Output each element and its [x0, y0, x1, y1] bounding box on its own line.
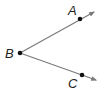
angle-diagram: A B C — [0, 0, 101, 96]
label-a: A — [67, 3, 77, 18]
point-b — [18, 51, 23, 56]
label-b: B — [5, 46, 14, 61]
ray-ba — [20, 12, 94, 53]
label-c: C — [68, 76, 78, 91]
point-c — [80, 73, 85, 78]
point-a — [78, 17, 83, 22]
ray-bc — [20, 53, 96, 80]
